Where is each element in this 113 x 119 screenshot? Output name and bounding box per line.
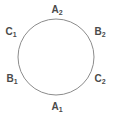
point-label-b1: B1 <box>6 74 17 84</box>
point-label-a1-subscript: 1 <box>59 106 63 113</box>
point-label-a1: A1 <box>51 102 62 112</box>
point-label-c2: C2 <box>94 74 105 84</box>
point-label-b2: B2 <box>94 27 105 37</box>
point-label-b1-subscript: 1 <box>14 78 18 85</box>
point-label-a2: A2 <box>51 5 62 15</box>
point-label-b2-subscript: 2 <box>102 31 106 38</box>
circle-diagram: A2 B2 C2 A1 B1 C1 <box>0 0 113 119</box>
point-label-c1: C1 <box>5 27 16 37</box>
circle-outline <box>18 19 94 95</box>
point-label-c2-subscript: 2 <box>102 78 106 85</box>
point-label-a2-subscript: 2 <box>59 9 63 16</box>
point-label-c1-subscript: 1 <box>13 31 17 38</box>
